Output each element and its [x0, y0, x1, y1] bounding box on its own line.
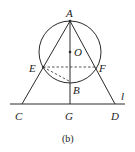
label-a: A — [65, 7, 73, 19]
point-e — [42, 66, 44, 68]
label-g: G — [65, 110, 73, 122]
geometry-diagram: A O E F B l C G D (b) — [0, 0, 135, 152]
label-o: O — [74, 46, 82, 58]
label-c: C — [15, 110, 23, 122]
label-b: B — [73, 84, 80, 96]
point-o — [69, 51, 72, 54]
label-e: E — [28, 62, 36, 74]
label-d: D — [110, 110, 119, 122]
label-l: l — [121, 90, 124, 102]
label-f: F — [98, 62, 106, 74]
figure-caption: (b) — [62, 133, 74, 145]
point-a — [69, 20, 72, 23]
segment-eb-dashed — [43, 67, 69, 81]
